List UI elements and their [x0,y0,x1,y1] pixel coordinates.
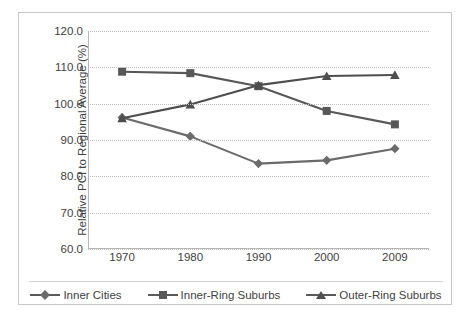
x-axis-tick-label: 2000 [314,251,340,263]
y-axis-tick-label: 60.0 [61,243,83,255]
legend-label: Inner-Ring Suburbs [181,289,281,301]
legend-marker-triangle-icon [306,289,336,301]
y-axis-tick-label: 90.0 [61,134,83,146]
legend-label: Inner Cities [63,289,121,301]
x-axis-tick-label: 2009 [382,251,408,263]
y-axis-tick-label: 100.0 [54,98,83,110]
legend-item-outer-ring-suburbs[interactable]: Outer-Ring Suburbs [306,289,441,301]
chart-legend: Inner Cities Inner-Ring Suburbs Outer-Ri… [19,285,453,305]
gridline [88,249,429,250]
x-axis-tick-label: 1990 [246,251,272,263]
x-axis-tick-label: 1970 [109,251,135,263]
plot-axes [88,31,429,249]
legend-marker-diamond-icon [30,289,60,301]
legend-marker-square-icon [148,289,178,301]
legend-item-inner-cities[interactable]: Inner Cities [30,289,121,301]
y-axis-tick-labels: 120.0110.0100.090.080.070.060.0 [19,31,83,249]
x-axis-tick-label: 1980 [178,251,204,263]
legend-label: Outer-Ring Suburbs [339,289,441,301]
y-axis-tick-label: 70.0 [61,207,83,219]
legend-item-inner-ring-suburbs[interactable]: Inner-Ring Suburbs [148,289,281,301]
plot-area [88,31,429,249]
y-axis-tick-label: 110.0 [55,61,83,73]
y-axis-tick-label: 120.0 [54,25,83,37]
legend-divider [29,281,443,282]
x-axis-tick-labels: 19701980199020002009 [88,251,429,271]
y-axis-tick-label: 80.0 [61,170,83,182]
chart-figure: Relative PCI to Regional Average (%) 120… [18,12,452,305]
